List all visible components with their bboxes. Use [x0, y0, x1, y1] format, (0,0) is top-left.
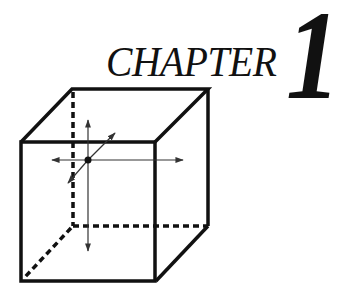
origin-point — [85, 157, 92, 164]
hidden-edges — [25, 92, 208, 277]
cube-diagram — [0, 0, 362, 298]
